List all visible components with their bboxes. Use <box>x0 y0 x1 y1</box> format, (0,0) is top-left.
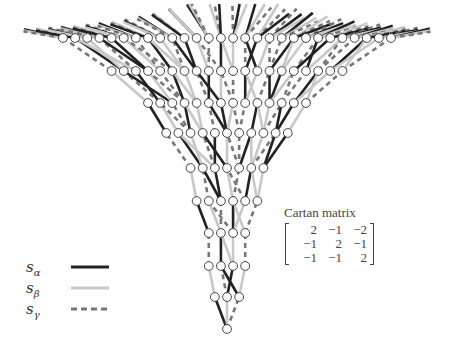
graph-node <box>71 34 80 43</box>
graph-node <box>223 325 232 334</box>
graph-node <box>204 262 213 271</box>
legend-label-gamma: sγ <box>26 300 40 320</box>
matrix-row: 2 −1 −2 <box>292 223 367 237</box>
graph-node <box>362 34 371 43</box>
legend-line-dashed <box>71 307 109 311</box>
legend-item-alpha: sα <box>26 258 136 279</box>
graph-node <box>387 34 396 43</box>
graph-node <box>235 293 244 302</box>
cartan-matrix-block: Cartan matrix 2 −1 −2 −1 2 −1 −1 −1 2 <box>285 205 374 265</box>
graph-node <box>107 67 116 76</box>
graph-node <box>180 34 189 43</box>
graph-node <box>314 67 323 76</box>
matrix-cell: 2 <box>292 223 317 237</box>
graph-node <box>204 34 213 43</box>
graph-node <box>229 197 238 206</box>
graph-node <box>217 99 226 108</box>
edge-s-beta <box>251 168 257 201</box>
legend-line-solid-light <box>71 286 109 290</box>
graph-node <box>156 34 165 43</box>
graph-node <box>374 34 383 43</box>
matrix-cell: −1 <box>342 237 367 251</box>
graph-node <box>277 34 286 43</box>
graph-node <box>338 34 347 43</box>
edge-s-beta <box>191 168 197 201</box>
graph-node <box>107 34 116 43</box>
matrix-cell: 2 <box>317 237 342 251</box>
edge-s-gamma <box>251 133 275 168</box>
graph-node <box>204 67 213 76</box>
edge-s-beta <box>257 38 269 71</box>
graph-node <box>289 67 298 76</box>
graph-node <box>192 197 201 206</box>
graph-node <box>314 34 323 43</box>
edge-s-beta <box>251 133 263 168</box>
graph-node <box>277 67 286 76</box>
edge-s-gamma <box>227 297 239 329</box>
edge-s-gamma <box>227 133 239 168</box>
edge-s-beta <box>184 71 196 103</box>
edge-s-beta <box>282 38 306 71</box>
graph-node <box>289 99 298 108</box>
graph-node <box>283 129 292 138</box>
edge-s-alpha <box>184 38 196 71</box>
graph-node <box>241 262 250 271</box>
graph-node <box>217 67 226 76</box>
graph-node <box>131 34 140 43</box>
graph-node <box>59 34 68 43</box>
graph-node <box>241 34 250 43</box>
graph-node <box>223 129 232 138</box>
graph-node <box>253 67 262 76</box>
edge-s-alpha <box>172 38 196 71</box>
graph-node <box>198 164 207 173</box>
graph-node <box>229 229 238 238</box>
cartan-matrix: 2 −1 −2 −1 2 −1 −1 −1 2 <box>285 223 374 265</box>
cartan-title: Cartan matrix <box>284 205 374 221</box>
graph-node <box>162 129 171 138</box>
graph-node <box>186 129 195 138</box>
graph-node <box>259 164 268 173</box>
matrix-cell: −1 <box>317 223 342 237</box>
graph-node <box>265 99 274 108</box>
matrix-cell: −1 <box>292 237 317 251</box>
graph-node <box>204 197 213 206</box>
legend-item-gamma: sγ <box>26 300 136 321</box>
graph-node <box>241 99 250 108</box>
graph-node <box>326 34 335 43</box>
graph-node <box>144 34 153 43</box>
graph-node <box>180 99 189 108</box>
edge-s-gamma <box>257 71 269 103</box>
graph-node <box>253 197 262 206</box>
graph-node <box>271 129 280 138</box>
edge-s-alpha <box>172 71 184 103</box>
graph-node <box>192 99 201 108</box>
graph-node <box>168 99 177 108</box>
graph-node <box>168 67 177 76</box>
graph-node <box>217 262 226 271</box>
graph-node <box>204 99 213 108</box>
graph-node <box>265 34 274 43</box>
legend: sα sβ sγ <box>26 258 136 321</box>
graph-node <box>217 229 226 238</box>
graph-node <box>144 67 153 76</box>
graph-node <box>241 67 250 76</box>
graph-node <box>253 34 262 43</box>
graph-node <box>229 262 238 271</box>
edge-s-gamma <box>221 71 233 103</box>
graph-node <box>247 164 256 173</box>
edge-s-gamma <box>197 71 209 103</box>
matrix-cell: −1 <box>292 251 317 265</box>
matrix-row: −1 −1 2 <box>292 251 367 265</box>
graph-node <box>217 34 226 43</box>
graph-node <box>235 164 244 173</box>
graph-node <box>259 129 268 138</box>
graph-node <box>95 34 104 43</box>
edge-s-alpha <box>245 168 251 201</box>
graph-node <box>277 99 286 108</box>
graph-node <box>192 34 201 43</box>
edge-s-alpha <box>270 38 294 71</box>
graph-node <box>223 164 232 173</box>
edge-s-alpha <box>270 71 282 103</box>
legend-item-beta: sβ <box>26 279 136 300</box>
edge-s-gamma <box>282 71 294 103</box>
